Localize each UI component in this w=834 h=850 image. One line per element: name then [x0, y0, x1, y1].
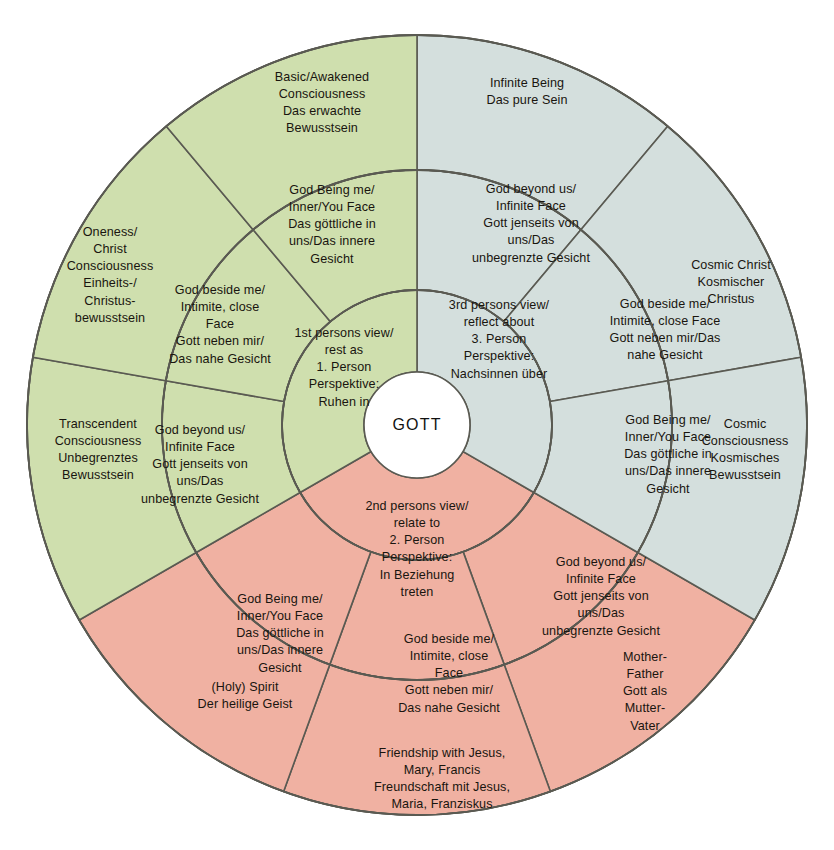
wheel-svg: [0, 0, 834, 850]
center-hub: [364, 372, 470, 478]
wheel-diagram: GOTT 1st persons view/ rest as 1. Person…: [0, 0, 834, 850]
pink-outer-slice-2: [284, 665, 551, 815]
